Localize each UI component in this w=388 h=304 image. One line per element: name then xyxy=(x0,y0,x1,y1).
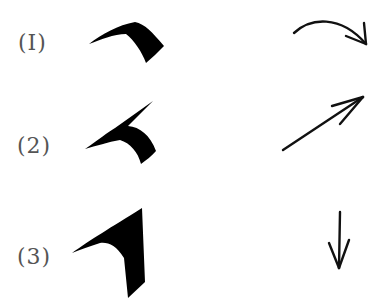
brush-stroke-3-icon xyxy=(72,208,145,298)
diagram-canvas xyxy=(0,0,388,304)
diagonal-arrow-2-icon xyxy=(283,97,363,150)
curved-arrow-1-icon xyxy=(294,22,366,44)
down-arrow-3-icon xyxy=(329,212,349,268)
brush-stroke-2-icon xyxy=(85,101,156,164)
brush-stroke-1-icon xyxy=(89,22,164,63)
